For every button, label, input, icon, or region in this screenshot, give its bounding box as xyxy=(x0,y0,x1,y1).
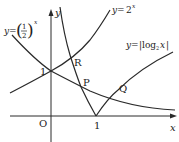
point-R-label: R xyxy=(74,57,82,68)
origin-label: O xyxy=(39,118,47,129)
abs-log-func: |log xyxy=(139,40,156,51)
x-axis-arrow-icon xyxy=(170,114,177,119)
label-exp-half: y= ( 1 2 ) x xyxy=(3,18,38,40)
label-exp2: y= 2 x xyxy=(111,2,136,15)
svg-text:2: 2 xyxy=(156,45,159,51)
point-P-label: P xyxy=(83,77,90,88)
y-axis-label: y xyxy=(54,7,61,18)
abs-log-var: x xyxy=(160,40,165,50)
x-tick-1: 1 xyxy=(94,120,100,131)
svg-text:y=: y= xyxy=(111,5,125,15)
curve-abs-log-right xyxy=(96,52,173,116)
y-tick-1: 1 xyxy=(40,66,46,77)
svg-text:1: 1 xyxy=(22,23,26,31)
point-Q-label: Q xyxy=(119,83,127,94)
right-paren: ) xyxy=(27,20,34,40)
svg-text:x: x xyxy=(132,2,136,9)
abs-log-lhs: y= xyxy=(125,40,139,50)
svg-text:2: 2 xyxy=(22,32,26,40)
abs-log-bar: | xyxy=(166,40,169,51)
x-axis-label: x xyxy=(170,122,176,133)
graph-canvas: y x O 1 1 R P Q y= 2 x y= ( 1 2 ) x y= |… xyxy=(0,0,179,142)
label-abs-log: y= |log 2 x | xyxy=(125,40,169,51)
svg-text:2: 2 xyxy=(126,5,132,15)
svg-text:x: x xyxy=(34,18,38,25)
svg-text:y=: y= xyxy=(3,26,17,36)
y-axis-arrow-icon xyxy=(49,9,54,16)
